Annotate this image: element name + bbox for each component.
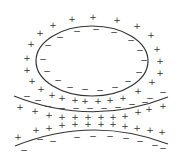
plus-charge: + <box>97 119 105 129</box>
diagram-canvas: ++++++++++++++++++++++++++++++++++++++++… <box>0 0 182 163</box>
plus-charge: + <box>48 90 56 100</box>
plus-charge: + <box>159 101 167 111</box>
plus-charge: + <box>89 12 97 22</box>
minus-charge: − <box>110 27 118 37</box>
minus-charge: − <box>43 66 51 76</box>
minus-charge: − <box>54 75 62 85</box>
positive-charges: ++++++++++++++++++++++++++++++++++++++++… <box>14 12 167 142</box>
plus-charge: + <box>121 121 129 131</box>
plus-charge: + <box>49 20 57 30</box>
plus-charge: + <box>156 68 164 78</box>
plus-charge: + <box>16 102 24 112</box>
plus-charge: + <box>113 15 121 25</box>
minus-charge: − <box>111 82 119 92</box>
minus-charge: − <box>44 40 52 50</box>
plus-charge: + <box>134 86 142 96</box>
minus-charge: − <box>72 103 80 113</box>
minus-charge: − <box>49 136 57 146</box>
plus-charge: + <box>14 132 22 142</box>
minus-charge: − <box>20 145 28 155</box>
plus-charge: + <box>68 14 76 24</box>
plus-charge: + <box>148 77 156 87</box>
minus-charge: − <box>44 101 52 111</box>
minus-charge: − <box>73 26 81 36</box>
plus-charge: + <box>28 76 36 86</box>
minus-charge: − <box>106 131 114 141</box>
plus-charge: + <box>71 119 79 129</box>
charge-distribution-diagram: ++++++++++++++++++++++++++++++++++++++++… <box>0 0 182 163</box>
plus-charge: + <box>147 30 155 40</box>
plus-charge: + <box>58 93 66 103</box>
minus-charge: − <box>124 76 132 86</box>
plus-charge: + <box>23 65 31 75</box>
minus-charge: − <box>151 140 159 150</box>
plus-charge: + <box>121 111 129 121</box>
plus-charge: + <box>146 125 154 135</box>
plus-charge: + <box>36 28 44 38</box>
minus-charge: − <box>135 67 143 77</box>
minus-charge: − <box>140 55 148 65</box>
plus-charge: + <box>84 119 92 129</box>
minus-charge: − <box>73 132 81 142</box>
minus-charge: − <box>23 91 31 101</box>
minus-charge: − <box>39 54 47 64</box>
minus-charge: − <box>159 87 167 97</box>
minus-charge: − <box>92 24 100 34</box>
plus-charge: + <box>153 44 161 54</box>
plus-charge: + <box>158 127 166 137</box>
minus-charge: − <box>159 143 167 153</box>
plus-charge: + <box>156 56 164 66</box>
plus-charge: + <box>31 106 39 116</box>
minus-charge: − <box>114 102 122 112</box>
minus-charge: − <box>34 95 42 105</box>
minus-charge: − <box>122 133 130 143</box>
minus-charge: − <box>89 131 97 141</box>
plus-charge: + <box>27 39 35 49</box>
plus-charge: + <box>58 120 66 130</box>
minus-charge: − <box>56 32 64 42</box>
minus-charge: − <box>128 99 136 109</box>
minus-charge: − <box>100 103 108 113</box>
minus-charge: − <box>58 103 66 113</box>
plus-charge: + <box>133 123 141 133</box>
plus-charge: + <box>133 21 141 31</box>
minus-charge: − <box>141 97 149 107</box>
minus-charge: − <box>86 103 94 113</box>
minus-charge: − <box>96 85 104 95</box>
minus-charge: − <box>81 84 89 94</box>
plus-charge: + <box>45 123 53 133</box>
minus-charge: − <box>36 134 44 144</box>
plus-charge: + <box>109 119 117 129</box>
plus-charge: + <box>45 110 53 120</box>
minus-charge: − <box>66 82 74 92</box>
minus-charge: − <box>127 35 135 45</box>
plus-charge: + <box>37 84 45 94</box>
minus-charge: − <box>136 45 144 55</box>
plus-charge: + <box>23 53 31 63</box>
minus-charge: − <box>136 136 144 146</box>
